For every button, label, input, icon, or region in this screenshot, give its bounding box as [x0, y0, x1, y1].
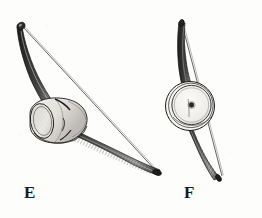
plate-drawing: [0, 0, 262, 218]
figure-label-e: E: [24, 184, 36, 201]
figure-e: [14, 21, 164, 180]
figure-f: [166, 18, 227, 186]
figure-e-lower-tip: [152, 168, 162, 176]
figure-label-f: F: [184, 184, 195, 201]
figure-f-round-resonator: [166, 82, 215, 131]
illustration-plate: E F: [0, 0, 262, 218]
figure-f-center-hole: [189, 103, 194, 108]
figure-e-gourd-resonator: [28, 98, 87, 143]
